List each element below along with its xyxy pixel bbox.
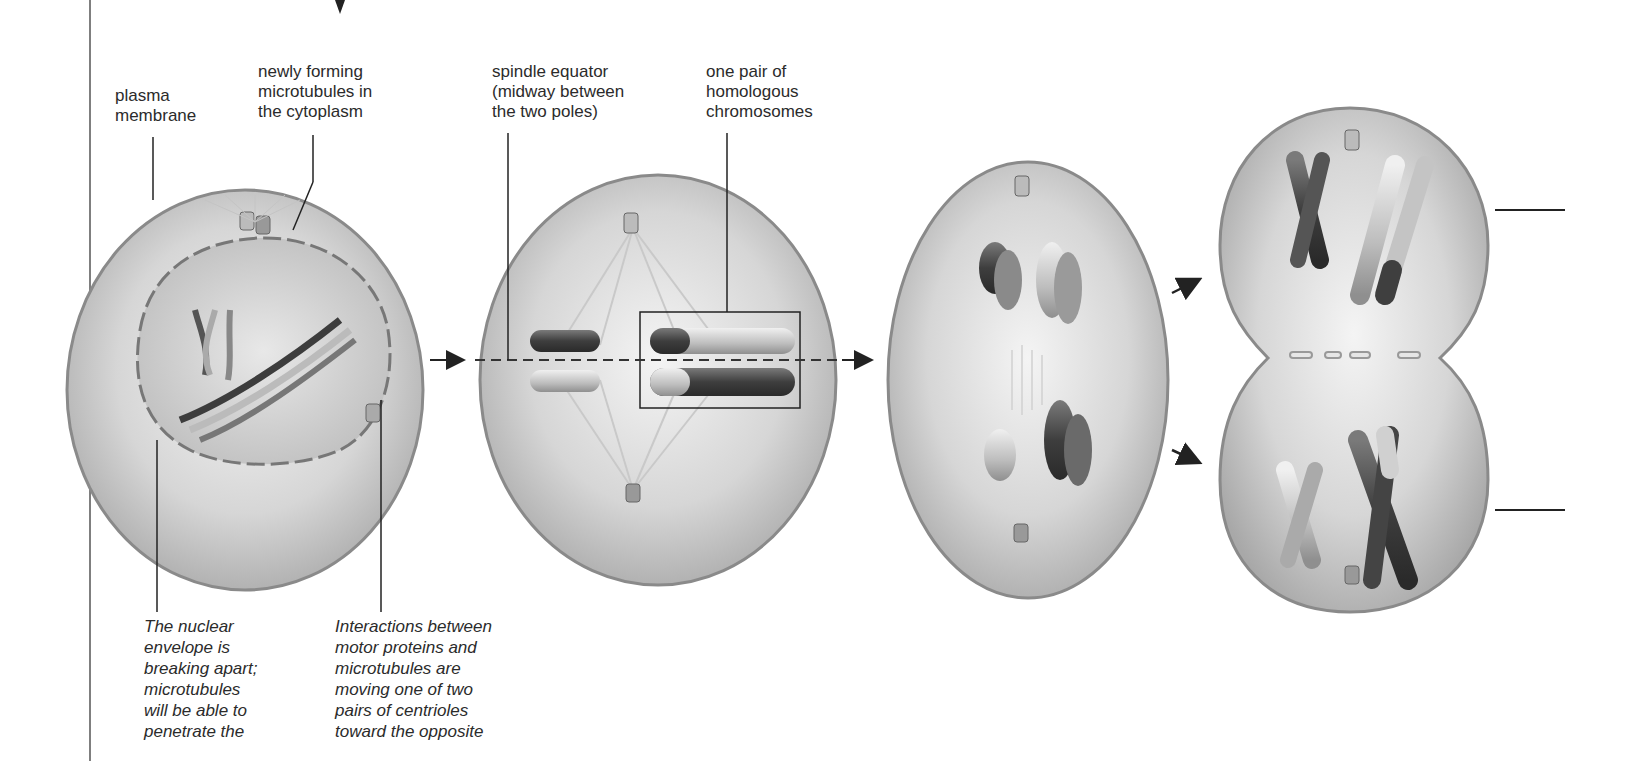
top-arrow-icon [335,0,345,14]
label-spindle-equator: spindle equator (midway between the two … [492,62,624,122]
label-plasma-membrane: plasma membrane [115,86,196,126]
arrow-up-right-icon [1172,280,1198,293]
arrow-down-right-icon [1172,450,1198,462]
metaphase-cell [480,175,836,585]
caption-motor-proteins: Interactions between motor proteins and … [335,616,492,742]
label-homologous-pair: one pair of homologous chromosomes [706,62,813,122]
caption-nuclear-envelope: The nuclear envelope is breaking apart; … [144,616,257,742]
prophase-cell [67,190,423,590]
telophase-cell [1220,108,1488,612]
label-microtubules: newly forming microtubules in the cytopl… [258,62,372,122]
anaphase-cell [888,162,1168,598]
